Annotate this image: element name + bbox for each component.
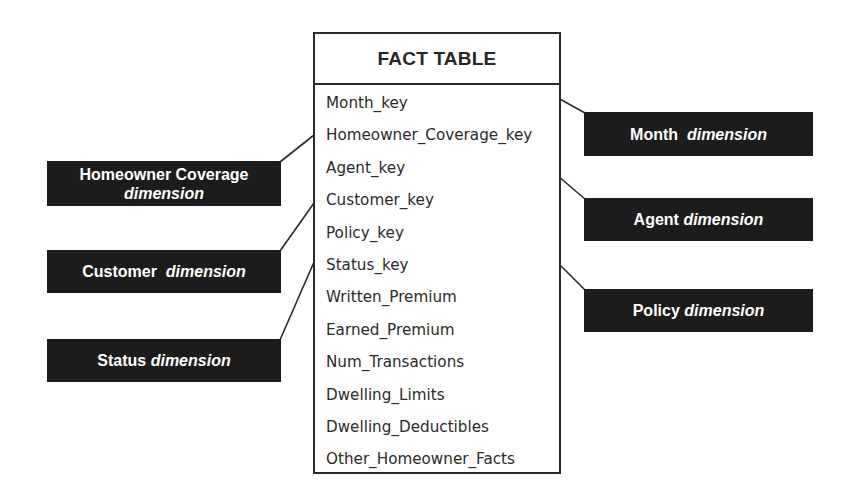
dimension-name: Homeowner Coverage: [80, 165, 249, 184]
dimension-name: Status: [97, 351, 146, 370]
dimension-suffix: dimension: [684, 301, 764, 320]
month-dimension: Month dimension: [584, 112, 813, 156]
field-policy-key: Policy_key: [315, 217, 559, 249]
field-agent-key: Agent_key: [315, 152, 559, 184]
dimension-name: Policy: [633, 301, 680, 320]
customer-dimension: Customer dimension: [47, 250, 281, 293]
field-other-homeowner-facts: Other_Homeowner_Facts: [315, 443, 559, 475]
dimension-suffix: dimension: [124, 184, 204, 203]
fact-table: FACT TABLE Month_key Homeowner_Coverage_…: [313, 32, 561, 474]
dimension-suffix: dimension: [151, 351, 231, 370]
dimension-name: Agent: [634, 210, 679, 229]
connector-homeowner-coverage: [280, 135, 314, 162]
field-dwelling-limits: Dwelling_Limits: [315, 379, 559, 411]
dimension-suffix: dimension: [683, 210, 763, 229]
dimension-suffix: dimension: [166, 262, 246, 281]
dimension-suffix: dimension: [687, 125, 767, 144]
star-schema-diagram: FACT TABLE Month_key Homeowner_Coverage_…: [0, 0, 856, 499]
field-written-premium: Written_Premium: [315, 281, 559, 313]
field-month-key: Month_key: [315, 87, 559, 119]
field-customer-key: Customer_key: [315, 184, 559, 216]
connector-month: [558, 98, 585, 113]
agent-dimension: Agent dimension: [584, 198, 813, 241]
fact-table-fields: Month_key Homeowner_Coverage_key Agent_k…: [315, 85, 559, 476]
connector-policy: [558, 263, 585, 290]
connector-agent: [558, 176, 585, 199]
status-dimension: Status dimension: [47, 339, 281, 382]
field-earned-premium: Earned_Premium: [315, 314, 559, 346]
connector-customer: [280, 203, 314, 251]
connector-status: [280, 262, 314, 340]
homeowner-coverage-dimension: Homeowner Coverage dimension: [47, 161, 281, 206]
policy-dimension: Policy dimension: [584, 289, 813, 332]
fact-table-title: FACT TABLE: [315, 34, 559, 85]
field-dwelling-deductibles: Dwelling_Deductibles: [315, 411, 559, 443]
dimension-name: Month: [630, 125, 678, 144]
dimension-name: Customer: [82, 262, 157, 281]
field-status-key: Status_key: [315, 249, 559, 281]
field-homeowner-coverage-key: Homeowner_Coverage_key: [315, 119, 559, 151]
field-num-transactions: Num_Transactions: [315, 346, 559, 378]
